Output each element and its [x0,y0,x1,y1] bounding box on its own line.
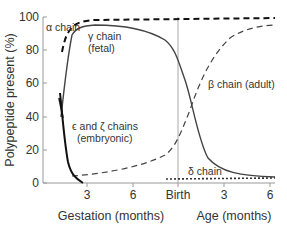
label-alpha-chain: α chain [46,21,80,33]
y-axis-title: Polypeptide present (%) [3,33,17,166]
svg-text:100: 100 [19,10,39,24]
series-delta-chain [166,178,275,179]
label-gamma-chain: γ chain [88,30,121,42]
svg-text:6: 6 [130,188,137,202]
svg-text:20: 20 [26,143,40,157]
label-delta-chain: δ chain [188,165,222,177]
hemoglobin-chain-chart: 0 20 40 60 80 100 3 6 Birth 3 6 Gestatio… [0,0,287,229]
svg-text:3: 3 [84,188,91,202]
label-fetal: (fetal) [88,42,115,54]
x-ticks: 3 6 Birth 3 6 [84,183,274,202]
svg-text:Birth: Birth [166,188,191,202]
svg-text:60: 60 [26,76,40,90]
x-axis-title-gestation: Gestation (months) [58,209,164,223]
svg-text:3: 3 [221,188,228,202]
svg-text:80: 80 [26,43,40,57]
label-beta-chain: β chain (adult) [208,78,275,90]
label-embryonic: (embryonic) [77,132,132,144]
svg-text:6: 6 [267,188,274,202]
svg-text:0: 0 [32,176,39,190]
x-axis-title-age: Age (months) [196,209,271,223]
label-epsilon-zeta-chains: ϵ and ζ chains [72,120,138,132]
svg-text:40: 40 [26,110,40,124]
